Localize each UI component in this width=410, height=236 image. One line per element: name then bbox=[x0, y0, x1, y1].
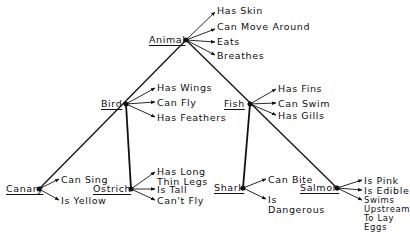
property-is-yellow: Is Yellow bbox=[61, 196, 106, 206]
node-ostrich: Ostrich bbox=[93, 184, 131, 194]
property-is-dangerous: Is Dangerous bbox=[268, 195, 325, 215]
node-shark: Shark bbox=[214, 183, 244, 193]
property-eats: Eats bbox=[217, 37, 240, 47]
node-fish: Fish bbox=[224, 99, 245, 109]
node-animal: Animal bbox=[149, 35, 185, 45]
property-has-fins: Has Fins bbox=[278, 84, 322, 94]
property-can-move-around: Can Move Around bbox=[217, 22, 310, 32]
property-cant-fly: Can't Fly bbox=[157, 196, 204, 206]
property-has-wings: Has Wings bbox=[157, 83, 212, 93]
node-salmon: Salmon bbox=[300, 183, 339, 193]
property-has-skin: Has Skin bbox=[217, 6, 263, 16]
property-breathes: Breathes bbox=[217, 51, 264, 61]
property-can-swim: Can Swim bbox=[278, 99, 330, 109]
property-has-gills: Has Gills bbox=[278, 111, 325, 121]
node-bird: Bird bbox=[101, 99, 122, 109]
property-can-fly: Can Fly bbox=[157, 98, 196, 108]
property-is-tall: Is Tall bbox=[157, 185, 187, 195]
property-has-feathers: Has Feathers bbox=[157, 113, 226, 123]
node-canary: Canary bbox=[6, 184, 43, 194]
property-swims-upstream: Swims Upstream To Lay Eggs bbox=[364, 196, 410, 232]
